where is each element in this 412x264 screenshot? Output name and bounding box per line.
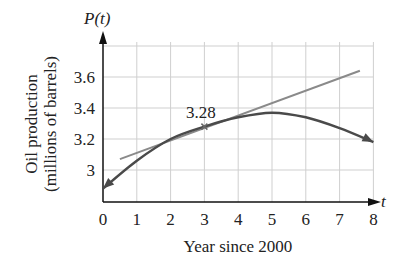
y-tick-label: 3 <box>87 161 96 180</box>
tick-labels: 01234567833.23.43.6 <box>74 68 378 229</box>
tangent-line <box>120 71 360 159</box>
x-tick-label: 1 <box>133 210 142 229</box>
y-axis-arrow-icon <box>99 31 107 44</box>
x-tick-label: 6 <box>302 210 311 229</box>
y-tick-label: 3.6 <box>74 68 95 87</box>
y-tick-label: 3.2 <box>74 130 95 149</box>
y-tick-label: 3.4 <box>74 99 96 118</box>
x-tick-label: 7 <box>335 210 344 229</box>
x-axis-arrow-icon <box>368 198 381 206</box>
y-axis-label-line2: (millions of barrels) <box>41 56 60 192</box>
x-tick-label: 2 <box>166 210 175 229</box>
y-axis-label-line1: Oil production <box>22 74 41 174</box>
point-annotation: 3.28 <box>186 103 216 122</box>
chart: 01234567833.23.43.6 P(t) t Year since 20… <box>0 0 412 264</box>
axes <box>99 31 381 206</box>
x-tick-label: 8 <box>369 210 378 229</box>
y-axis-symbol: P(t) <box>83 9 111 28</box>
grid <box>103 42 373 202</box>
x-axis-label: Year since 2000 <box>184 237 293 256</box>
x-tick-label: 5 <box>268 210 277 229</box>
x-tick-label: 0 <box>99 210 108 229</box>
x-tick-label: 4 <box>234 210 243 229</box>
x-axis-symbol: t <box>381 192 387 211</box>
x-tick-label: 3 <box>200 210 209 229</box>
